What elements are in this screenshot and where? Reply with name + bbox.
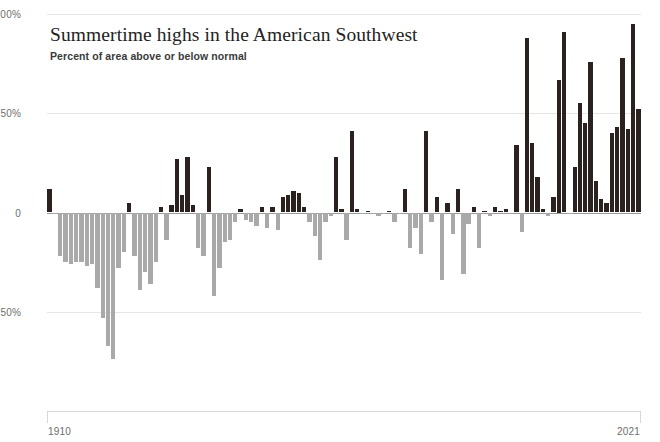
bar [626,129,630,212]
y-axis-tick-label: 0 [0,207,21,218]
bar [488,213,492,217]
bar [392,213,396,223]
bar [334,157,338,213]
bar [376,213,380,217]
bar [238,209,242,213]
bar [398,213,402,215]
bar [69,213,73,265]
bar [297,193,301,213]
bar [270,207,274,213]
bar [260,207,264,213]
bar [583,123,587,212]
bar [53,213,57,215]
bar [530,143,534,212]
bars-group [47,14,641,411]
bar [461,213,465,275]
plot-area: 100%50%050% [47,14,641,411]
bar [244,213,248,221]
x-axis-tick-start: 1910 [48,426,71,437]
bar [47,189,51,213]
bar [610,133,614,212]
bar [122,213,126,253]
bar [85,213,89,267]
x-axis: 1910 2021 [47,411,641,423]
bar [498,211,502,213]
bar [493,207,497,213]
bar [313,213,317,237]
bar [164,213,168,241]
bar [636,109,640,212]
chart-figure: Summertime highs in the American Southwe… [0,0,660,442]
bar [631,24,635,213]
bar [573,167,577,213]
bar [620,58,624,213]
bar [201,213,205,257]
bar [265,213,269,229]
x-axis-tick-end: 2021 [617,426,640,437]
bar [535,177,539,213]
bar [588,62,592,213]
bar [551,197,555,213]
bar [387,211,391,213]
bar [223,213,227,243]
bar [254,213,258,227]
bar [116,213,120,269]
bar [276,213,280,231]
bar [355,209,359,213]
bar [111,213,115,360]
bar [440,213,444,280]
y-axis-tick-label: 50% [0,108,21,119]
bar [525,38,529,213]
bar [249,213,253,223]
bar [175,159,179,213]
bar [578,103,582,212]
bar [429,213,433,223]
bar [445,203,449,213]
bar [281,197,285,213]
bar [472,207,476,213]
bar [286,195,290,213]
bar [143,213,147,273]
bar [217,213,221,269]
bar [233,213,237,223]
bar [323,213,327,223]
bar [138,213,142,290]
bar [541,209,545,213]
bar [307,213,311,223]
bar [196,213,200,249]
bar [408,213,412,249]
bar [148,213,152,284]
bar [318,213,322,261]
bar [212,213,216,296]
bar [366,211,370,213]
bar [419,213,423,255]
bar [169,205,173,213]
bar [567,213,571,215]
bar [424,131,428,212]
bar [403,189,407,213]
bar [482,211,486,213]
bar [58,213,62,257]
bar [615,127,619,212]
bar [504,209,508,213]
bar [604,203,608,213]
bar [382,213,386,215]
bar [90,213,94,265]
bar [557,80,561,213]
bar [456,189,460,213]
bar [329,213,333,217]
bar [344,213,348,241]
y-axis-tick-label: 100% [0,9,21,20]
bar [154,213,158,263]
bar [466,213,470,225]
bar [514,145,518,212]
bar [127,203,131,213]
bar [302,207,306,213]
bar [191,205,195,213]
bar [79,213,83,263]
bar [350,131,354,212]
bar [360,213,364,215]
bar [101,213,105,318]
bar [477,213,481,249]
bar [509,213,513,215]
